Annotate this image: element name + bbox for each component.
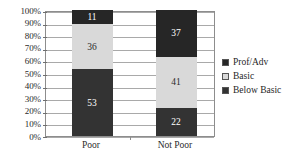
bar-stack: 533611 — [72, 12, 113, 136]
bar-group[interactable]: 533611 — [72, 12, 113, 136]
y-axis-tick — [43, 62, 47, 63]
bar-segment-label: 11 — [87, 12, 96, 22]
legend-item[interactable]: Prof/Adv — [222, 56, 268, 68]
y-axis-tick — [43, 37, 47, 38]
legend: Prof/AdvBasicBelow Basic — [222, 56, 298, 98]
y-axis-tick — [43, 100, 47, 101]
legend-item-label: Below Basic — [233, 85, 281, 95]
bar-segment[interactable]: 11 — [72, 10, 113, 24]
y-axis-tick-label: 70% — [0, 44, 41, 53]
y-axis-tick — [43, 137, 47, 138]
y-axis-tick — [43, 75, 47, 76]
stacked-bar-chart: 100%90%80%70%60%50%40%30%20%10%0% 533611… — [0, 0, 298, 162]
y-axis-tick-label: 100% — [0, 7, 41, 16]
x-axis-tick-label: Poor — [51, 140, 131, 151]
y-axis-tick-label: 10% — [0, 120, 41, 129]
y-axis-tick — [43, 88, 47, 89]
x-axis-tick-label: Not Poor — [135, 140, 215, 151]
y-axis: 100%90%80%70%60%50%40%30%20%10%0% — [0, 11, 41, 137]
bar-segment-label: 53 — [87, 98, 97, 108]
legend-swatch-icon — [222, 59, 229, 66]
bar-segment-label: 22 — [171, 117, 181, 127]
y-axis-tick-label: 30% — [0, 95, 41, 104]
y-axis-tick — [43, 25, 47, 26]
y-axis-tick-label: 60% — [0, 57, 41, 66]
y-axis-tick — [43, 50, 47, 51]
bar-segment-label: 37 — [171, 28, 181, 38]
bar-segment-label: 41 — [171, 77, 181, 87]
legend-swatch-icon — [222, 73, 229, 80]
bar-segment[interactable]: 36 — [72, 24, 113, 69]
y-axis-tick-label: 0% — [0, 133, 41, 142]
y-axis-tick — [43, 12, 47, 13]
y-axis-tick-label: 20% — [0, 107, 41, 116]
bar-segment[interactable]: 41 — [156, 57, 197, 109]
legend-item[interactable]: Basic — [222, 70, 254, 82]
legend-item-label: Basic — [233, 71, 254, 81]
y-axis-tick-label: 90% — [0, 19, 41, 28]
y-axis-tick — [43, 125, 47, 126]
y-axis-tick — [43, 113, 47, 114]
bar-segment-label: 36 — [87, 42, 97, 52]
bar-segment[interactable]: 22 — [156, 108, 197, 136]
bar-stack: 224137 — [156, 12, 197, 136]
bar-group[interactable]: 224137 — [156, 12, 197, 136]
x-axis: PoorNot Poor — [45, 140, 215, 156]
y-axis-tick-label: 40% — [0, 82, 41, 91]
legend-swatch-icon — [222, 87, 229, 94]
legend-item[interactable]: Below Basic — [222, 84, 281, 96]
y-axis-tick-label: 80% — [0, 32, 41, 41]
legend-item-label: Prof/Adv — [233, 57, 268, 67]
y-axis-tick-label: 50% — [0, 70, 41, 79]
plot-area: 533611224137 — [45, 11, 215, 137]
bar-segment[interactable]: 53 — [72, 69, 113, 136]
bar-segment[interactable]: 37 — [156, 10, 197, 57]
